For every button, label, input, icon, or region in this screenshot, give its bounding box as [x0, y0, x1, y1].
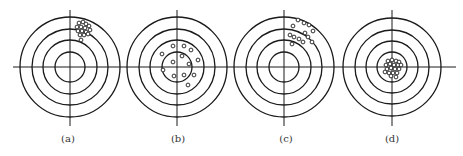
- shot-mark: [79, 38, 83, 42]
- shot-mark: [80, 29, 84, 33]
- shot-mark: [292, 35, 296, 39]
- shot-mark: [296, 18, 300, 22]
- targets-group: (a)(b)(c)(d): [20, 10, 441, 144]
- shot-mark: [196, 58, 200, 62]
- shot-mark: [186, 83, 190, 87]
- shot-mark: [389, 74, 393, 78]
- shot-mark: [180, 54, 184, 58]
- shot-mark: [75, 25, 79, 29]
- target-label: (d): [385, 133, 399, 144]
- shot-mark: [187, 62, 191, 66]
- shot-mark: [171, 44, 175, 48]
- shot-mark: [388, 62, 392, 66]
- target-b: (b): [127, 10, 227, 144]
- shot-mark: [189, 48, 193, 52]
- shot-mark: [291, 24, 295, 28]
- shot-mark: [383, 70, 387, 74]
- shot-mark: [310, 40, 314, 44]
- shot-mark: [171, 60, 175, 64]
- shot-mark: [182, 44, 186, 48]
- target-label: (c): [279, 133, 293, 144]
- shot-mark: [83, 26, 87, 30]
- shot-mark: [160, 52, 164, 56]
- shot-mark: [394, 75, 398, 79]
- shot-mark: [399, 63, 403, 67]
- shot-mark: [392, 63, 396, 67]
- shot-mark: [87, 24, 91, 28]
- shot-mark: [86, 32, 90, 36]
- shot-mark: [288, 33, 292, 37]
- shot-mark: [384, 63, 388, 67]
- shot-mark: [161, 68, 165, 72]
- shot-mark: [311, 29, 315, 33]
- shot-mark: [395, 71, 399, 75]
- shot-mark: [390, 58, 394, 62]
- target-a: (a): [20, 10, 120, 144]
- target-label: (a): [61, 133, 75, 144]
- shot-mark: [82, 33, 86, 37]
- shot-mark: [389, 66, 393, 70]
- shot-mark: [77, 21, 81, 25]
- shot-mark: [172, 74, 176, 78]
- shot-mark: [192, 73, 196, 77]
- shot-mark: [303, 31, 307, 35]
- shot-mark: [302, 21, 306, 25]
- shot-mark: [290, 42, 294, 46]
- shot-mark: [182, 73, 186, 77]
- shot-mark: [397, 67, 401, 71]
- target-c: (c): [234, 10, 334, 144]
- shot-mark: [393, 67, 397, 71]
- shot-mark: [301, 40, 305, 44]
- shot-mark: [78, 33, 82, 37]
- shot-mark: [297, 37, 301, 41]
- target-d: (d): [343, 10, 441, 144]
- shot-mark: [306, 35, 310, 39]
- target-label: (b): [171, 133, 185, 144]
- shot-mark: [79, 25, 83, 29]
- shot-mark: [88, 28, 92, 32]
- shot-mark: [307, 23, 311, 27]
- target-diagram: (a)(b)(c)(d): [0, 0, 463, 156]
- shot-mark: [76, 29, 80, 33]
